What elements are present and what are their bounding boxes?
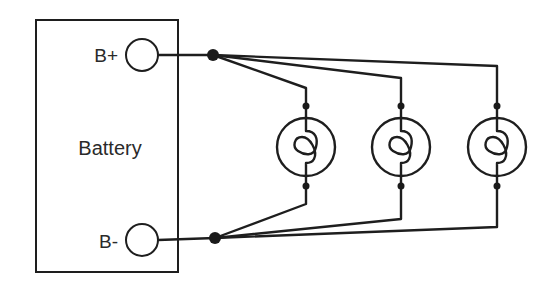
positive-junction-node <box>207 49 219 61</box>
top-wire-bulb-1 <box>213 55 306 106</box>
bulb-3 <box>468 103 526 190</box>
filament-icon <box>486 119 508 175</box>
negative-terminal-label: B- <box>99 231 118 252</box>
battery-label: Battery <box>78 137 141 159</box>
filament-icon <box>390 119 412 175</box>
top-wire-bulb-3 <box>213 55 497 106</box>
negative-terminal <box>126 224 158 256</box>
negative-junction-node <box>209 232 221 244</box>
bulb-1 <box>277 103 335 190</box>
filament-icon <box>295 119 317 175</box>
negative-lead-wire <box>158 238 215 240</box>
bulb-2 <box>372 103 430 190</box>
positive-terminal-label: B+ <box>94 45 118 66</box>
circuit-diagram: Battery B+ B- <box>0 0 555 286</box>
bottom-wire-bulb-2 <box>215 186 401 238</box>
bottom-wire-bulb-3 <box>215 186 497 238</box>
positive-terminal <box>126 39 158 71</box>
